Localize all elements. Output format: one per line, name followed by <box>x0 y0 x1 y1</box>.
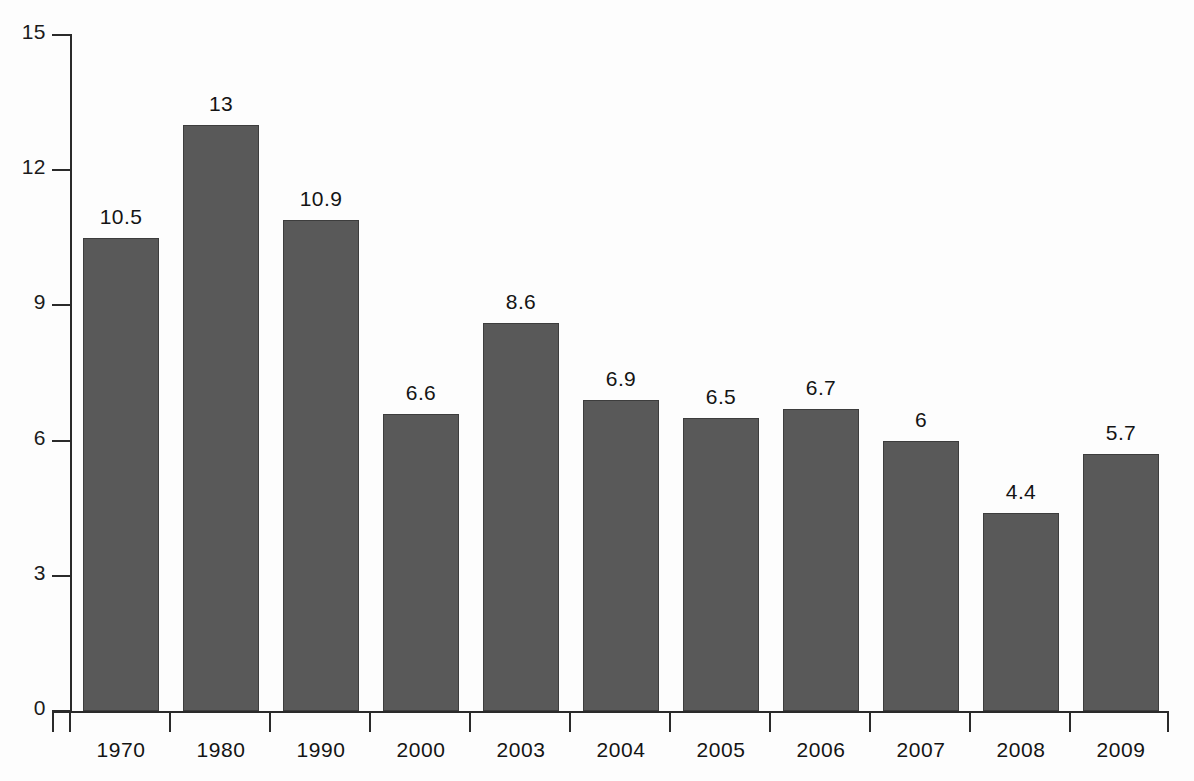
bar-2000[interactable] <box>383 414 459 711</box>
bar-2005[interactable] <box>683 418 759 711</box>
y-tick-15 <box>52 34 72 36</box>
x-tick-2007 <box>869 711 871 732</box>
x-tick-2003 <box>469 711 471 732</box>
y-axis-line <box>70 35 72 713</box>
bar-value-label-2007: 6 <box>861 408 981 432</box>
y-tick-label-3: 3 <box>2 561 46 585</box>
x-tick-2006 <box>769 711 771 732</box>
y-tick-label-6: 6 <box>2 426 46 450</box>
x-tick-2009 <box>1069 711 1071 732</box>
bar-value-label-1990: 10.9 <box>261 187 381 211</box>
bar-1980[interactable] <box>183 125 259 711</box>
bar-2004[interactable] <box>583 400 659 711</box>
x-axis-right-cap <box>1167 711 1169 732</box>
bar-1970[interactable] <box>83 238 159 711</box>
bar-value-label-2003: 8.6 <box>461 290 581 314</box>
x-axis-left-cap <box>52 711 54 732</box>
bar-value-label-1980: 13 <box>161 92 281 116</box>
y-tick-3 <box>52 575 72 577</box>
bar-2007[interactable] <box>883 441 959 711</box>
bar-value-label-2006: 6.7 <box>761 376 881 400</box>
bar-2006[interactable] <box>783 409 859 711</box>
x-tick-1970 <box>69 711 71 732</box>
bar-value-label-2000: 6.6 <box>361 381 481 405</box>
y-tick-label-9: 9 <box>2 290 46 314</box>
chart-page: 03691215 10.51310.96.68.66.96.56.764.45.… <box>0 0 1194 781</box>
bar-value-label-2009: 5.7 <box>1061 421 1181 445</box>
bar-2008[interactable] <box>983 513 1059 711</box>
bar-2003[interactable] <box>483 323 559 711</box>
y-tick-label-0: 0 <box>2 696 46 720</box>
bar-value-label-2008: 4.4 <box>961 480 1081 504</box>
x-axis-line <box>52 711 1169 713</box>
x-tick-1990 <box>269 711 271 732</box>
bar-1990[interactable] <box>283 220 359 711</box>
x-tick-2008 <box>969 711 971 732</box>
x-tick-2000 <box>369 711 371 732</box>
y-tick-label-15: 15 <box>2 20 46 44</box>
x-tick-1980 <box>169 711 171 732</box>
bar-chart: 03691215 10.51310.96.68.66.96.56.764.45.… <box>0 0 1194 781</box>
bar-2009[interactable] <box>1083 454 1159 711</box>
bar-value-label-1970: 10.5 <box>61 205 181 229</box>
x-tick-2004 <box>569 711 571 732</box>
x-axis-label-2009: 2009 <box>1061 738 1181 762</box>
y-tick-label-12: 12 <box>2 155 46 179</box>
x-tick-2005 <box>669 711 671 732</box>
y-tick-9 <box>52 304 72 306</box>
y-tick-12 <box>52 169 72 171</box>
y-tick-6 <box>52 440 72 442</box>
